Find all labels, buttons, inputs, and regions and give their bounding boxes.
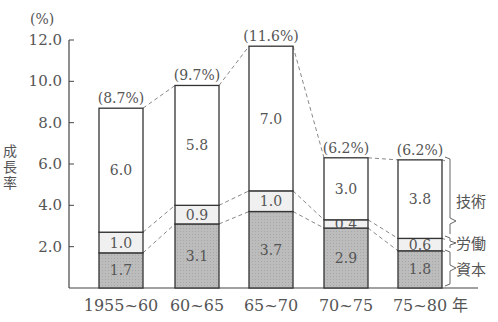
legend-capital: 資本: [456, 261, 486, 279]
brace-tech-icon: [445, 157, 456, 234]
connector-line: [293, 212, 324, 229]
connector-line: [368, 228, 398, 251]
y-tick-label: 2.0: [38, 238, 62, 256]
connector-line: [293, 191, 324, 220]
segment-value: 3.1: [186, 248, 208, 264]
connector-line: [368, 158, 398, 160]
legend-braces: [445, 157, 456, 286]
bar-70~75: 2.90.43.0(6.2%): [323, 140, 370, 288]
brace-capital-icon: [445, 250, 456, 286]
x-tick-label: 75~80: [393, 296, 447, 315]
segment-value: 1.0: [110, 235, 132, 251]
y-tick-label: 10.0: [29, 72, 62, 90]
segment-value: 1.8: [409, 261, 431, 277]
connector-line: [143, 224, 175, 253]
segment-value: 6.0: [110, 162, 132, 178]
bar-1955~60: 1.71.06.0(8.7%): [98, 90, 145, 288]
legend-labor: 労働: [456, 235, 486, 253]
connector-line: [143, 85, 175, 108]
total-label: (8.7%): [98, 90, 145, 106]
total-label: (6.2%): [323, 140, 370, 156]
y-tick-label: 4.0: [38, 196, 62, 214]
connector-line: [219, 212, 249, 224]
x-tick-label: 60~65: [170, 296, 224, 315]
y-axis-title-char-2: 長: [3, 159, 17, 175]
bar-75~80: 1.80.63.8(6.2%): [397, 142, 444, 288]
x-tick-labels: 1955~6060~6565~7070~7575~80: [84, 296, 447, 315]
x-tick-label: 70~75: [319, 296, 373, 315]
total-label: (9.7%): [174, 67, 221, 83]
growth-rate-stacked-bar-chart: (%) 成 長 率 2.04.06.08.010.012.0 1.71.06.0…: [0, 0, 498, 322]
legend-tech: 技術: [456, 193, 486, 211]
segment-value: 3.8: [409, 191, 431, 207]
segment-value: 2.9: [335, 250, 357, 266]
bars: 1.71.06.0(8.7%)3.10.95.8(9.7%)3.71.07.0(…: [98, 28, 444, 288]
connector-line: [368, 220, 398, 239]
connector-line: [219, 46, 249, 85]
y-tick-label: 6.0: [38, 155, 62, 173]
x-axis-suffix: 年: [452, 296, 468, 315]
segment-value: 5.8: [186, 137, 208, 153]
segment-value: 7.0: [260, 111, 282, 127]
y-ticks: 2.04.06.08.010.012.0: [29, 31, 74, 256]
connector-line: [293, 46, 324, 158]
y-axis-title-char-3: 率: [3, 175, 17, 191]
y-tick-label: 12.0: [29, 31, 62, 49]
total-label: (6.2%): [397, 142, 444, 158]
connector-line: [219, 191, 249, 205]
segment-value: 0.9: [186, 207, 208, 223]
y-tick-label: 8.0: [38, 114, 62, 132]
x-tick-label: 65~70: [244, 296, 298, 315]
x-tick-label: 1955~60: [84, 296, 158, 315]
bar-65~70: 3.71.07.0(11.6%): [243, 28, 298, 288]
total-label: (11.6%): [243, 28, 298, 44]
segment-value: 1.7: [110, 262, 132, 278]
bar-60~65: 3.10.95.8(9.7%): [174, 67, 221, 288]
y-unit-label: (%): [30, 11, 54, 27]
segment-value: 1.0: [260, 193, 282, 209]
y-axis-title-char-1: 成: [3, 143, 17, 159]
segment-value: 3.7: [260, 242, 282, 258]
brace-labor-icon: [445, 236, 456, 248]
segment-value: 3.0: [335, 181, 357, 197]
